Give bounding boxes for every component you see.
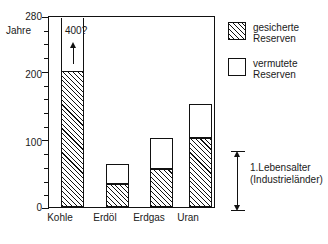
y-major-tick-0 (42, 208, 49, 209)
y-minor-tick-40 (44, 182, 49, 183)
legend-item-vermutete[interactable]: vermutete Reserven (228, 58, 299, 80)
plot-area: 400? (48, 16, 215, 208)
x-tick-label-uran: Uran (165, 212, 211, 223)
y-minor-tick-260 (44, 31, 49, 32)
bar-segment-presumed-erdgas[interactable] (150, 138, 173, 169)
legend-label-gesicherte-line2: Reserven (253, 33, 299, 44)
y-major-tick-200 (42, 72, 49, 73)
y-minor-tick-240 (44, 44, 49, 45)
y-minor-tick-120 (44, 127, 49, 128)
y-minor-tick-160 (44, 99, 49, 100)
lifespan-annotation-label: 1.Lebensalter (Industrieländer) (250, 162, 323, 186)
bar-segment-presumed-uran[interactable] (189, 104, 212, 138)
y-tick-label-100: 100 (8, 138, 42, 148)
bar-segment-secured-erdoel[interactable] (106, 184, 129, 207)
y-tick-label-280: 280 (8, 12, 42, 22)
x-tick-label-kohle: Kohle (37, 212, 83, 223)
legend: gesicherte Reserven vermutete Reserven (228, 22, 299, 94)
legend-label-gesicherte-line1: gesicherte (253, 22, 299, 33)
legend-label-vermutete: vermutete Reserven (253, 58, 297, 80)
y-minor-tick-220 (44, 58, 49, 59)
y-minor-tick-180 (44, 86, 49, 87)
lifespan-double-arrow-icon (231, 151, 245, 211)
x-tick-label-erdoel: Erdöl (82, 212, 128, 223)
overflow-up-arrow-icon (68, 42, 78, 66)
lifespan-annotation-line2: (Industrieländer) (250, 174, 323, 186)
bar-segment-secured-erdgas[interactable] (150, 169, 173, 207)
legend-swatch-plain-icon (228, 58, 246, 76)
lifespan-annotation-line1: 1.Lebensalter (250, 162, 323, 174)
y-major-tick-280 (42, 17, 49, 18)
y-minor-tick-20 (44, 195, 49, 196)
legend-label-gesicherte: gesicherte Reserven (253, 22, 299, 44)
y-minor-tick-60 (44, 168, 49, 169)
y-axis-unit-label: Jahre (6, 26, 31, 36)
y-minor-tick-80 (44, 154, 49, 155)
legend-item-gesicherte[interactable]: gesicherte Reserven (228, 22, 299, 44)
bar-segment-presumed-erdoel[interactable] (106, 164, 129, 185)
y-minor-tick-140 (44, 113, 49, 114)
overflow-value-label: 400? (65, 26, 87, 36)
legend-label-vermutete-line1: vermutete (253, 58, 297, 69)
legend-label-vermutete-line2: Reserven (253, 69, 297, 80)
y-major-tick-100 (42, 140, 49, 141)
y-tick-label-200: 200 (8, 70, 42, 80)
legend-swatch-hatched-icon (228, 22, 246, 40)
bar-segment-secured-uran[interactable] (189, 138, 212, 207)
chart-root: Jahre 280 200 100 0 (0, 0, 328, 244)
bar-segment-secured-kohle[interactable] (61, 71, 84, 207)
